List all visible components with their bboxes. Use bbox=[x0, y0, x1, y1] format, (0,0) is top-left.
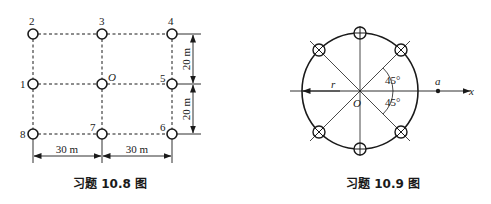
well-6-icon bbox=[167, 129, 177, 139]
well-3-icon bbox=[97, 29, 107, 39]
well-label-1: 1 bbox=[20, 78, 26, 90]
well-lower-right-icon bbox=[395, 126, 407, 138]
well-5-icon bbox=[167, 79, 177, 89]
point-a-marker bbox=[436, 89, 440, 93]
well-top-icon bbox=[354, 27, 366, 39]
angle-upper-label: 45° bbox=[385, 74, 400, 86]
well-2-icon bbox=[28, 29, 38, 39]
caption-left: 习题 10.8 图 bbox=[73, 177, 147, 191]
well-8-icon bbox=[28, 129, 38, 139]
well-bottom-icon bbox=[354, 143, 366, 155]
dim-vertical-lower: 20 m bbox=[180, 97, 192, 120]
x-axis-label: x bbox=[468, 85, 474, 97]
well-1-icon bbox=[28, 79, 38, 89]
radius-label: r bbox=[331, 78, 336, 90]
dim-vertical-upper: 20 m bbox=[180, 47, 192, 70]
well-O-icon bbox=[97, 79, 107, 89]
well-grid-figure: 2 3 4 1 O 5 8 7 6 20 m 20 m 30 m 30 m 习题… bbox=[20, 15, 201, 191]
dim-horizontal-left: 30 m bbox=[56, 143, 79, 155]
well-label-3: 3 bbox=[99, 15, 105, 27]
well-label-7: 7 bbox=[90, 121, 96, 133]
well-label-O: O bbox=[108, 71, 116, 83]
angle-lower-label: 45° bbox=[385, 96, 400, 108]
dim-horizontal-right: 30 m bbox=[126, 143, 149, 155]
well-label-5: 5 bbox=[160, 72, 166, 84]
center-label: O bbox=[353, 97, 361, 109]
well-lower-left-icon bbox=[313, 126, 325, 138]
circular-well-figure: r O a x 45° 45° 习题 10.9 图 bbox=[290, 26, 474, 191]
well-upper-left-icon bbox=[313, 44, 325, 56]
well-upper-right-icon bbox=[395, 44, 407, 56]
figure-canvas: 2 3 4 1 O 5 8 7 6 20 m 20 m 30 m 30 m 习题… bbox=[0, 0, 491, 204]
well-4-icon bbox=[167, 29, 177, 39]
well-label-2: 2 bbox=[29, 15, 35, 27]
well-label-8: 8 bbox=[20, 128, 26, 140]
well-label-4: 4 bbox=[168, 15, 174, 27]
well-7-icon bbox=[97, 129, 107, 139]
point-a-label: a bbox=[435, 75, 441, 87]
well-label-6: 6 bbox=[160, 121, 166, 133]
caption-right: 习题 10.9 图 bbox=[346, 177, 420, 191]
horizontal-dimension bbox=[33, 139, 172, 163]
